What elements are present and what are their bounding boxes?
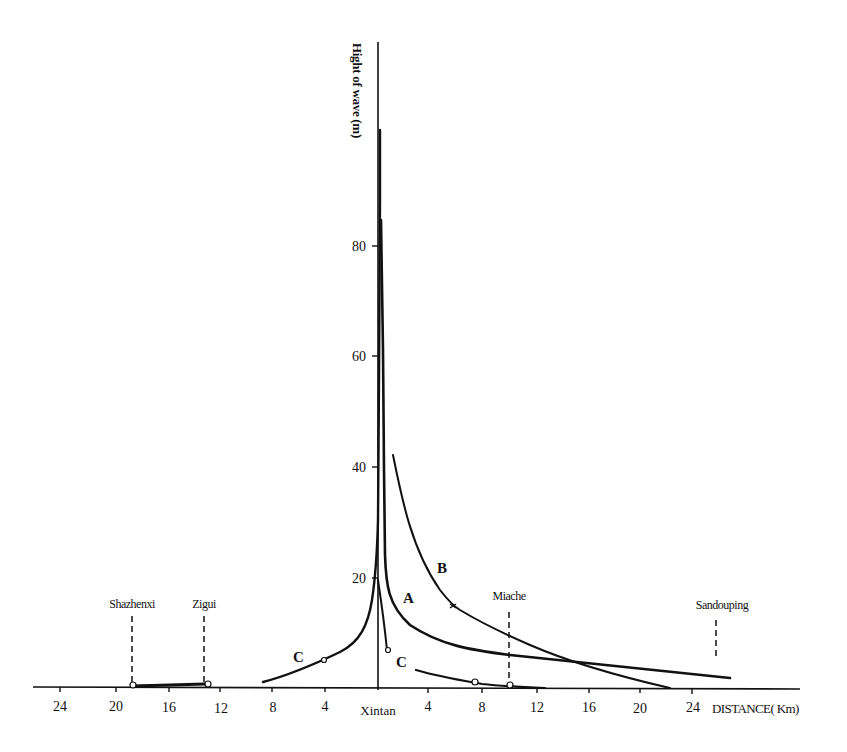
curve-c-right-lower: [416, 670, 545, 688]
origin-label: Xintan: [360, 703, 396, 718]
curve-a: [381, 220, 730, 678]
place-label-sandouping: Sandouping: [696, 598, 749, 612]
x-tick-labels-right: 4 8 12 16 20 24: [425, 699, 701, 716]
curve-label-c-right: C: [396, 654, 407, 670]
x-axis: [33, 687, 800, 689]
place-label-miache: Miache: [493, 589, 526, 603]
x-tick-label: 20: [109, 699, 123, 714]
data-markers: [130, 648, 513, 689]
x-tick-label: 24: [53, 699, 67, 714]
x-tick-label: 16: [162, 700, 176, 715]
x-tick-label: 4: [322, 699, 329, 714]
x-tick-label: 4: [425, 699, 432, 714]
curve-label-c-left: C: [293, 649, 304, 665]
x-tick-label: 24: [686, 700, 700, 715]
x-tick-label: 8: [479, 700, 486, 715]
x-tick-labels-left: 24 20 16 12 8 4: [53, 699, 329, 716]
place-markers: [132, 612, 716, 686]
y-tick-labels: 20 40 60 80: [352, 239, 366, 586]
curve-label-b: B: [437, 560, 447, 576]
x-tick-label: 20: [633, 701, 647, 716]
x-tick-label: 12: [214, 701, 228, 716]
curve-c-upstream: [132, 684, 205, 686]
curve-label-a: A: [403, 590, 414, 606]
y-axis-label: Hight of wave (m): [350, 43, 365, 138]
x-tick-label: 16: [582, 700, 596, 715]
x-tick-label: 8: [270, 700, 277, 715]
curve-b: [393, 455, 670, 688]
place-label-zigui: Zigui: [192, 597, 217, 611]
y-tick-label: 20: [352, 571, 366, 586]
curve-c-left: [263, 130, 380, 682]
y-tick-label: 40: [352, 460, 366, 475]
x-tick-label: 12: [530, 700, 544, 715]
curve-c-right: [378, 580, 387, 650]
wave-height-chart: 24 20 16 12 8 4 4 8 12 16 20 24 Xintan D…: [0, 0, 847, 752]
x-axis-label: DISTANCE( Km): [712, 701, 799, 716]
y-tick-label: 60: [352, 349, 366, 364]
place-label-shazhenxi: Shazhenxi: [109, 597, 156, 611]
y-tick-label: 80: [352, 239, 366, 254]
